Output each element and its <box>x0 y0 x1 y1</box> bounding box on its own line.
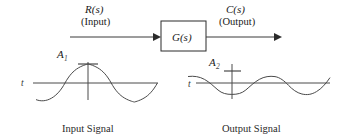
output-signal-waveform <box>188 76 330 94</box>
input-amplitude-label: A <box>56 48 64 60</box>
output-signal-sublabel: (Output) <box>219 16 256 28</box>
input-time-axis-label: t <box>21 78 24 88</box>
control-system-block-diagram-figure: R(s) (Input) G(s) C(s) (Output) t A 1 In… <box>0 0 354 140</box>
input-signal-sublabel: (Input) <box>81 16 111 28</box>
output-time-axis-label: t <box>188 79 191 89</box>
output-signal-label: C(s) <box>226 3 245 16</box>
output-amplitude-subscript: 2 <box>216 62 220 71</box>
input-signal-caption: Input Signal <box>62 123 114 134</box>
output-amplitude-label: A <box>208 56 216 68</box>
output-signal-caption: Output Signal <box>222 123 281 134</box>
input-amplitude-subscript: 1 <box>64 54 68 63</box>
input-signal-label: R(s) <box>84 3 104 16</box>
input-arrow-head <box>153 33 161 41</box>
output-arrow-head <box>274 33 282 41</box>
transfer-function-label: G(s) <box>172 31 192 44</box>
